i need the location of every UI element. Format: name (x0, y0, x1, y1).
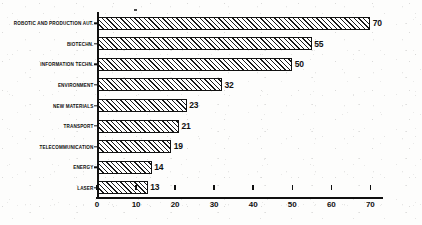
bar (97, 140, 171, 153)
x-axis-tick (292, 185, 293, 190)
x-axis-tick (252, 185, 253, 190)
category-label: INFORMATION TECHN. (40, 62, 93, 67)
category-label: BIOTECHN. (67, 41, 94, 46)
x-axis-tick-label: 70 (366, 200, 375, 209)
x-axis-tick (174, 185, 175, 190)
y-axis-line (97, 12, 99, 199)
bar-value-label: 14 (154, 163, 163, 172)
plot-area: ROBOTIC AND PRODUCTION AUT.70BIOTECHN.55… (97, 13, 382, 198)
bar-value-label: 55 (314, 40, 323, 49)
bar-row: TELECOMMUNICATION19 (97, 140, 183, 153)
category-label: ENERGY (73, 165, 93, 170)
bar-value-label: 50 (295, 60, 304, 69)
bar (97, 99, 187, 112)
bar-row: ROBOTIC AND PRODUCTION AUT.70 (97, 17, 382, 30)
x-axis-tick-label: 60 (327, 200, 336, 209)
bar-row: INFORMATION TECHN.50 (97, 58, 304, 71)
bar-chart: ROBOTIC AND PRODUCTION AUT.70BIOTECHN.55… (0, 0, 422, 225)
bar (97, 78, 222, 91)
x-axis-tick (213, 185, 214, 190)
bar-row: BIOTECHN.55 (97, 37, 323, 50)
bar-value-label: 19 (174, 142, 183, 151)
bar-value-label: 70 (373, 19, 382, 28)
bar (97, 58, 292, 71)
category-label: NEW MATERIALS (53, 103, 93, 108)
x-axis-tick-label: 40 (249, 200, 258, 209)
bar (97, 120, 179, 133)
x-axis-tick-label: 30 (210, 200, 219, 209)
bar-value-label: 21 (181, 122, 190, 131)
bar (97, 17, 370, 30)
category-label: TELECOMMUNICATION (39, 144, 93, 149)
bar-row: ENERGY14 (97, 161, 163, 174)
bar-row: NEW MATERIALS23 (97, 99, 198, 112)
x-axis-tick (331, 185, 332, 190)
x-axis-line (96, 197, 383, 199)
bar (97, 181, 148, 194)
bar (97, 37, 312, 50)
category-label: ROBOTIC AND PRODUCTION AUT. (14, 21, 94, 26)
category-label: LASER (77, 185, 93, 190)
x-axis-tick (370, 185, 371, 190)
bar-value-label: 13 (150, 183, 159, 192)
x-axis-tick (135, 185, 136, 190)
x-axis-tick-label: 0 (95, 200, 99, 209)
x-axis-tick-label: 20 (171, 200, 180, 209)
category-label: ENVIRONMENT (58, 82, 94, 87)
bar (97, 161, 152, 174)
scan-speck (134, 9, 137, 11)
bar-row: TRANSPORT21 (97, 120, 191, 133)
x-axis-tick-label: 50 (288, 200, 297, 209)
x-axis-tick-label: 10 (132, 200, 141, 209)
bar-value-label: 23 (189, 101, 198, 110)
category-label: TRANSPORT (64, 124, 94, 129)
bar-row: ENVIRONMENT32 (97, 78, 233, 91)
bar-row: LASER13 (97, 181, 159, 194)
bar-value-label: 32 (224, 81, 233, 90)
